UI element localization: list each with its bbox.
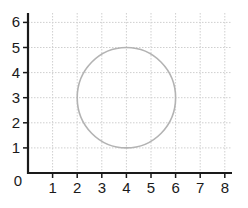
x-tick-label: 6 — [171, 179, 179, 196]
y-tick-label: 4 — [12, 64, 20, 81]
y-tick-label: 1 — [12, 139, 20, 156]
x-tick-label: 2 — [73, 179, 81, 196]
y-tick-label: 6 — [12, 13, 20, 30]
grid-lines — [28, 13, 232, 173]
y-tick-label: 5 — [12, 39, 20, 56]
coordinate-plane: 123456781234560 — [0, 0, 248, 208]
tick-labels: 123456781234560 — [12, 13, 229, 196]
y-tick-label: 3 — [12, 89, 20, 106]
x-tick-label: 3 — [98, 179, 106, 196]
x-tick-label: 4 — [122, 179, 130, 196]
x-tick-label: 5 — [147, 179, 155, 196]
y-tick-label: 2 — [12, 114, 20, 131]
x-tick-label: 1 — [48, 179, 56, 196]
x-tick-label: 8 — [221, 179, 229, 196]
origin-label: 0 — [14, 172, 22, 189]
x-tick-label: 7 — [196, 179, 204, 196]
